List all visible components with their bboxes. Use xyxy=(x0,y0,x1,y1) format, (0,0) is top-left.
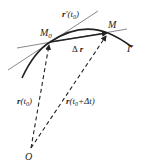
vector-r-t0-dt xyxy=(31,36,106,148)
tangent-label: r'(t0) xyxy=(62,9,79,20)
curve-vector-diagram: r'(t0) M0 M Γ Δr r(t0) r(t0+Δt) O xyxy=(0,0,145,165)
label-M0: M0 xyxy=(39,27,52,40)
label-origin: O xyxy=(25,151,32,162)
label-delta-r: Δr xyxy=(72,44,84,54)
vector-r-t0 xyxy=(31,45,49,148)
label-r-t0: r(t0) xyxy=(17,96,32,107)
label-r-t0-dt: r(t0+Δt) xyxy=(66,96,95,107)
label-gamma: Γ xyxy=(126,43,133,54)
label-M: M xyxy=(107,19,117,30)
